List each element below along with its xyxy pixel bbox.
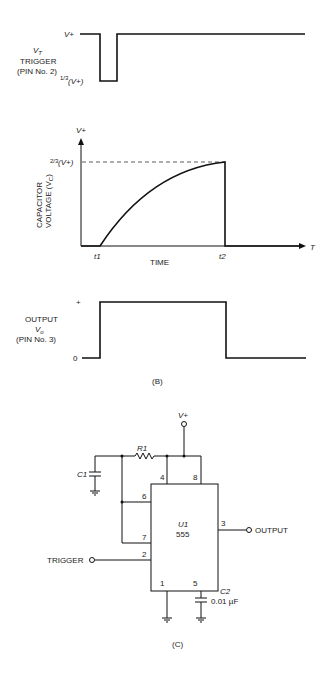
cap-y-top-label: V+ bbox=[76, 126, 86, 135]
y-axis-arrow-icon bbox=[78, 138, 84, 145]
output-trace bbox=[82, 302, 306, 358]
capacitor-charge-curve bbox=[81, 162, 300, 246]
pin-5: 5 bbox=[193, 579, 198, 588]
pin-8: 8 bbox=[193, 473, 198, 482]
capacitor-voltage-chart: V+ T 2/3 (V+) CAPACITOR VOLTAGE (VC) t1 … bbox=[35, 126, 316, 267]
cap-x-axis-label: T bbox=[310, 243, 316, 252]
c2-label: C2 bbox=[220, 587, 231, 596]
cap-y-label: CAPACITOR VOLTAGE (VC) bbox=[35, 174, 54, 228]
pin-2: 2 bbox=[142, 550, 147, 559]
trigger-waveform: V+ VT TRIGGER (PIN No. 2) 1/3 (V+) bbox=[17, 30, 305, 86]
supply-label: V+ bbox=[178, 411, 188, 420]
trigger-terminal-label: TRIGGER bbox=[47, 556, 84, 565]
555-monostable-figure: V+ VT TRIGGER (PIN No. 2) 1/3 (V+) V+ T … bbox=[0, 0, 328, 673]
ic-part: 555 bbox=[176, 530, 190, 539]
t2-label: t2 bbox=[219, 252, 226, 261]
pin-1: 1 bbox=[160, 579, 165, 588]
c2-value: 0.01 µF bbox=[211, 597, 238, 606]
pin-3: 3 bbox=[221, 519, 226, 528]
trigger-pin-label: (PIN No. 2) bbox=[17, 67, 57, 76]
schematic-555: V+ R1 C1 U1 555 4 8 6 7 2 bbox=[47, 411, 288, 622]
output-low-label: 0 bbox=[73, 354, 78, 363]
output-terminal-label: OUTPUT bbox=[255, 526, 288, 535]
pin-4: 4 bbox=[160, 473, 165, 482]
svg-text:CAPACITOR: CAPACITOR bbox=[35, 182, 44, 228]
svg-text:VOLTAGE (VC): VOLTAGE (VC) bbox=[44, 174, 54, 228]
output-label: OUTPUT bbox=[25, 315, 58, 324]
supply-terminal-icon bbox=[182, 422, 187, 427]
x-axis-arrow-icon bbox=[299, 243, 306, 249]
threshold-label: (V+) bbox=[58, 158, 74, 167]
time-label: TIME bbox=[150, 258, 169, 267]
trigger-symbol: VT bbox=[33, 46, 43, 56]
output-waveform: + 0 OUTPUT Vo (PIN No. 3) bbox=[16, 298, 306, 363]
r1-label: R1 bbox=[137, 444, 147, 453]
resistor-r1-icon bbox=[135, 453, 154, 459]
output-terminal-icon bbox=[247, 528, 252, 533]
panel-c-label: (C) bbox=[172, 640, 183, 649]
output-high-label: + bbox=[76, 298, 81, 307]
ic-name: U1 bbox=[178, 520, 188, 529]
output-symbol: Vo bbox=[35, 325, 44, 335]
trigger-trace bbox=[80, 34, 305, 81]
trigger-label: TRIGGER bbox=[20, 57, 57, 66]
c1-label: C1 bbox=[77, 470, 87, 479]
pin-6: 6 bbox=[142, 492, 147, 501]
trigger-terminal-icon bbox=[90, 558, 95, 563]
pin-7: 7 bbox=[142, 533, 147, 542]
trigger-high-label: V+ bbox=[64, 30, 74, 39]
output-pin-label: (PIN No. 3) bbox=[16, 335, 56, 344]
trigger-low-label: (V+) bbox=[68, 77, 84, 86]
panel-b-label: (B) bbox=[152, 377, 163, 386]
t1-label: t1 bbox=[94, 252, 101, 261]
